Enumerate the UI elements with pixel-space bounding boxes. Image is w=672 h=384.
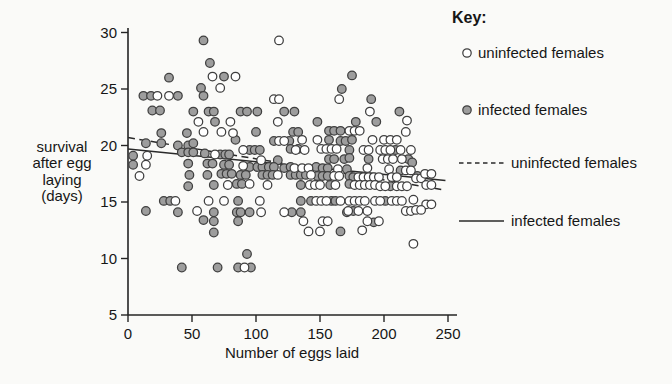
data-point-infected bbox=[210, 107, 219, 116]
data-point-infected bbox=[364, 155, 373, 164]
y-tick-label: 5 bbox=[109, 306, 117, 323]
data-point-infected bbox=[157, 139, 166, 148]
data-point-infected bbox=[178, 263, 187, 272]
data-point-uninfected bbox=[403, 182, 412, 191]
data-point-uninfected bbox=[171, 197, 180, 206]
data-point-infected bbox=[189, 148, 198, 157]
y-axis-title-line: laying bbox=[42, 171, 81, 188]
data-point-uninfected bbox=[307, 171, 316, 180]
data-point-uninfected bbox=[239, 162, 248, 171]
filled-circle-key-marker-icon bbox=[463, 106, 471, 114]
data-point-infected bbox=[313, 118, 322, 127]
key-item-label: infected females bbox=[511, 212, 620, 229]
data-point-infected bbox=[290, 107, 299, 116]
data-point-uninfected bbox=[304, 227, 313, 236]
data-point-infected bbox=[234, 217, 243, 226]
data-point-uninfected bbox=[386, 146, 395, 155]
data-point-uninfected bbox=[194, 118, 203, 127]
data-point-uninfected bbox=[216, 84, 225, 93]
data-point-infected bbox=[297, 181, 306, 190]
data-point-uninfected bbox=[403, 116, 412, 125]
data-point-uninfected bbox=[335, 95, 344, 104]
data-point-infected bbox=[338, 85, 347, 94]
data-point-uninfected bbox=[407, 166, 416, 175]
scatter-chart-figure: 51015202530050100150200250survivalafter … bbox=[0, 0, 672, 384]
key-item-label: infected females bbox=[478, 101, 587, 118]
data-point-infected bbox=[174, 208, 183, 217]
data-point-uninfected bbox=[407, 146, 416, 155]
data-point-uninfected bbox=[336, 197, 345, 206]
data-point-infected bbox=[199, 36, 208, 45]
data-point-uninfected bbox=[291, 146, 300, 155]
data-point-infected bbox=[325, 136, 334, 145]
data-point-uninfected bbox=[398, 197, 407, 206]
data-point-uninfected bbox=[417, 206, 426, 215]
data-point-uninfected bbox=[257, 156, 266, 165]
data-point-uninfected bbox=[275, 36, 284, 45]
data-point-infected bbox=[367, 95, 376, 104]
data-point-infected bbox=[297, 208, 306, 217]
data-point-infected bbox=[330, 155, 339, 164]
data-point-infected bbox=[242, 171, 251, 180]
data-point-uninfected bbox=[274, 171, 283, 180]
data-point-uninfected bbox=[366, 107, 375, 116]
data-point-uninfected bbox=[263, 181, 272, 190]
data-point-uninfected bbox=[316, 181, 325, 190]
scatter-plot-svg: 51015202530050100150200250survivalafter … bbox=[0, 0, 672, 384]
data-point-uninfected bbox=[331, 181, 340, 190]
data-point-infected bbox=[184, 182, 193, 191]
data-point-uninfected bbox=[389, 155, 398, 164]
data-point-uninfected bbox=[224, 181, 233, 190]
data-point-uninfected bbox=[199, 128, 208, 137]
data-point-infected bbox=[185, 171, 194, 180]
y-axis-title-line: survival bbox=[37, 138, 88, 155]
data-point-uninfected bbox=[332, 145, 341, 154]
y-tick-label: 15 bbox=[100, 193, 117, 210]
data-point-infected bbox=[210, 217, 219, 226]
y-tick-label: 30 bbox=[100, 24, 117, 41]
data-point-infected bbox=[395, 107, 404, 116]
data-point-infected bbox=[243, 107, 252, 116]
data-point-uninfected bbox=[393, 136, 402, 145]
data-point-uninfected bbox=[239, 146, 248, 155]
x-axis-title: Number of eggs laid bbox=[225, 344, 359, 361]
data-point-infected bbox=[253, 107, 262, 116]
data-point-uninfected bbox=[375, 173, 384, 182]
data-point-uninfected bbox=[427, 200, 436, 209]
x-tick-label: 50 bbox=[184, 325, 201, 342]
data-point-uninfected bbox=[275, 95, 284, 104]
data-point-infected bbox=[352, 118, 361, 127]
data-point-uninfected bbox=[280, 137, 289, 146]
data-point-infected bbox=[199, 216, 208, 225]
data-point-uninfected bbox=[229, 129, 238, 138]
data-point-uninfected bbox=[398, 155, 407, 164]
data-point-uninfected bbox=[153, 92, 162, 101]
data-point-infected bbox=[336, 127, 345, 136]
data-point-uninfected bbox=[231, 72, 240, 81]
data-point-uninfected bbox=[165, 92, 174, 101]
data-point-infected bbox=[129, 160, 138, 169]
open-circle-key-marker-icon bbox=[463, 49, 471, 57]
data-point-uninfected bbox=[240, 263, 249, 272]
data-point-infected bbox=[236, 208, 245, 217]
data-point-uninfected bbox=[335, 172, 344, 181]
x-tick-label: 250 bbox=[435, 325, 460, 342]
data-point-uninfected bbox=[220, 197, 229, 206]
data-point-infected bbox=[372, 118, 381, 127]
x-tick-label: 0 bbox=[124, 325, 132, 342]
data-point-uninfected bbox=[217, 128, 226, 137]
data-point-infected bbox=[189, 107, 198, 116]
data-point-infected bbox=[142, 139, 151, 148]
data-point-infected bbox=[165, 73, 174, 82]
data-point-infected bbox=[243, 250, 252, 259]
data-point-uninfected bbox=[364, 146, 373, 155]
data-point-uninfected bbox=[143, 151, 152, 160]
y-axis-title-line: after egg bbox=[32, 154, 91, 171]
data-point-uninfected bbox=[361, 197, 370, 206]
data-point-uninfected bbox=[363, 164, 372, 173]
data-point-uninfected bbox=[323, 217, 332, 226]
y-axis-title: survivalafter egglaying(days) bbox=[32, 138, 91, 204]
data-point-infected bbox=[225, 160, 234, 169]
data-point-uninfected bbox=[354, 207, 363, 216]
data-point-infected bbox=[280, 107, 289, 116]
